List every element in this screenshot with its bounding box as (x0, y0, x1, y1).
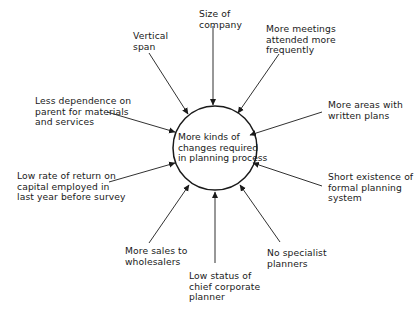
factor-vertical-span: Vertical span (133, 31, 168, 52)
factor-low-status-chief-planner: Low status of chief corporate planner (189, 271, 260, 303)
factor-no-specialist-planners: No specialist planners (267, 248, 327, 269)
factor-more-meetings: More meetings attended more frequently (266, 24, 336, 56)
factor-more-sales-wholesalers: More sales to wholesalers (125, 246, 188, 267)
factor-size-of-company: Size of company (199, 9, 242, 30)
factor-short-existence: Short existence of formal planning syste… (328, 172, 413, 204)
arrow-short-existence (253, 163, 322, 186)
arrow-more-meetings (238, 54, 279, 113)
factor-low-rate-of-return: Low rate of return on capital employed i… (17, 171, 126, 203)
arrow-vertical-span (149, 53, 188, 114)
center-node-label: More kinds of changes required in planni… (178, 132, 267, 164)
factor-less-dependence: Less dependence on parent for materials … (35, 96, 131, 128)
arrow-no-specialist-planners (240, 185, 280, 242)
arrow-more-sales-wholesalers (149, 185, 189, 243)
factor-more-areas-written-plans: More areas with written plans (328, 100, 403, 121)
